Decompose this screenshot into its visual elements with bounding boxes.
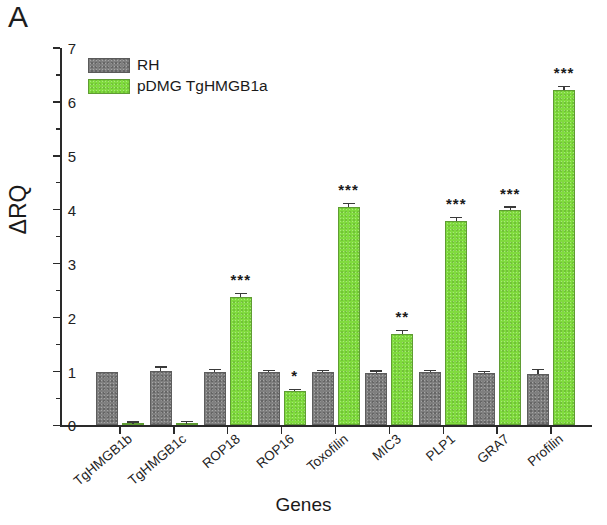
legend-label-rh: RH [137,56,159,74]
significance-marker: *** [500,186,521,201]
x-axis-category-labels: TgHMGB1bTgHMGB1cROP18ROP16ToxofilinMIC3P… [60,432,592,492]
x-axis-line [60,425,592,427]
bar-rh [150,371,172,425]
error-bar-cap [317,370,329,371]
x-axis-category-label: TgHMGB1b [71,432,134,488]
bar-pdmg [445,221,467,426]
legend-label-pdmg: pDMG TgHMGB1a [137,77,268,95]
legend-item-rh: RH [88,56,268,74]
error-bar-cap [504,206,516,207]
bar-rh [258,372,280,425]
error-bar-cap [370,370,382,371]
bar-rh [312,372,334,425]
y-axis-tick-label: 1 [46,363,76,380]
error-bar [294,390,295,392]
bar-rh [96,372,118,426]
error-bar [214,370,215,371]
figure-panel-a: A 01234567 ****************** TgHMGB1bTg… [0,0,607,525]
significance-marker: *** [554,65,575,80]
error-bar-cap [209,369,221,370]
bar-pdmg [230,297,252,425]
y-axis-tick-label: 6 [46,93,76,110]
bar-pdmg [391,334,413,426]
y-axis-tick-label: 7 [46,40,76,57]
x-axis-category-label: TgHMGB1c [126,432,189,488]
x-axis-category-label: ROP16 [254,432,297,471]
error-bar [186,422,187,424]
x-axis-category-label: Profilin [525,432,565,469]
error-bar [240,294,241,297]
x-axis-category-label: Toxofilin [304,432,350,474]
legend-swatch-rh [88,58,130,73]
significance-marker: *** [446,196,467,211]
y-axis-tick-label: 4 [46,201,76,218]
x-axis-title: Genes [0,494,607,516]
error-bar-cap [155,366,167,367]
y-axis-tick-label: 5 [46,147,76,164]
bar-rh [365,373,387,426]
significance-marker: * [291,368,298,383]
x-axis-category-label: MIC3 [371,432,404,463]
bar-rh [419,372,441,425]
legend: RHpDMG TgHMGB1a [88,56,268,95]
error-bar-cap [558,86,570,87]
y-axis-tick-label: 3 [46,255,76,272]
error-bar [376,372,377,373]
legend-item-pdmg: pDMG TgHMGB1a [88,77,268,95]
error-bar-cap [127,421,139,422]
error-bar [510,208,511,210]
error-bar [484,372,485,373]
error-bar [402,331,403,334]
bar-pdmg [553,90,575,425]
significance-marker: *** [338,182,359,197]
bar-pdmg [284,391,306,425]
error-bar-cap [343,203,355,204]
error-bar [456,218,457,220]
error-bar [132,423,133,424]
error-bar [268,371,269,372]
bar-pdmg [499,210,521,426]
bar-pdmg [338,207,360,425]
legend-swatch-pdmg [88,79,130,94]
error-bar [348,204,349,207]
error-bar-cap [450,217,462,218]
bar-rh [527,374,549,426]
y-axis-tick-label: 2 [46,309,76,326]
error-bar-cap [289,389,301,390]
x-axis-category-label: ROP18 [200,432,243,471]
error-bar-cap [532,369,544,370]
error-bar-cap [396,330,408,331]
panel-label: A [8,2,28,32]
plot-area: 01234567 ****************** [60,48,592,427]
error-bar-cap [478,371,490,372]
y-axis-tick-labels: 01234567 [46,48,76,427]
error-bar-cap [263,370,275,371]
significance-marker: ** [396,309,410,324]
x-axis-category-label: PLP1 [424,432,458,464]
bar-rh [473,373,495,425]
x-axis-category-label: GRA7 [475,432,512,466]
error-bar [160,368,161,371]
y-axis-title: ΔRQ [5,140,32,280]
error-bar [322,371,323,372]
error-bar [537,370,538,373]
error-bar-cap [424,370,436,371]
significance-marker: *** [230,272,251,287]
error-bar [563,87,564,90]
error-bar-cap [235,293,247,294]
error-bar [430,371,431,372]
bar-rh [204,372,226,426]
error-bar-cap [181,421,193,422]
